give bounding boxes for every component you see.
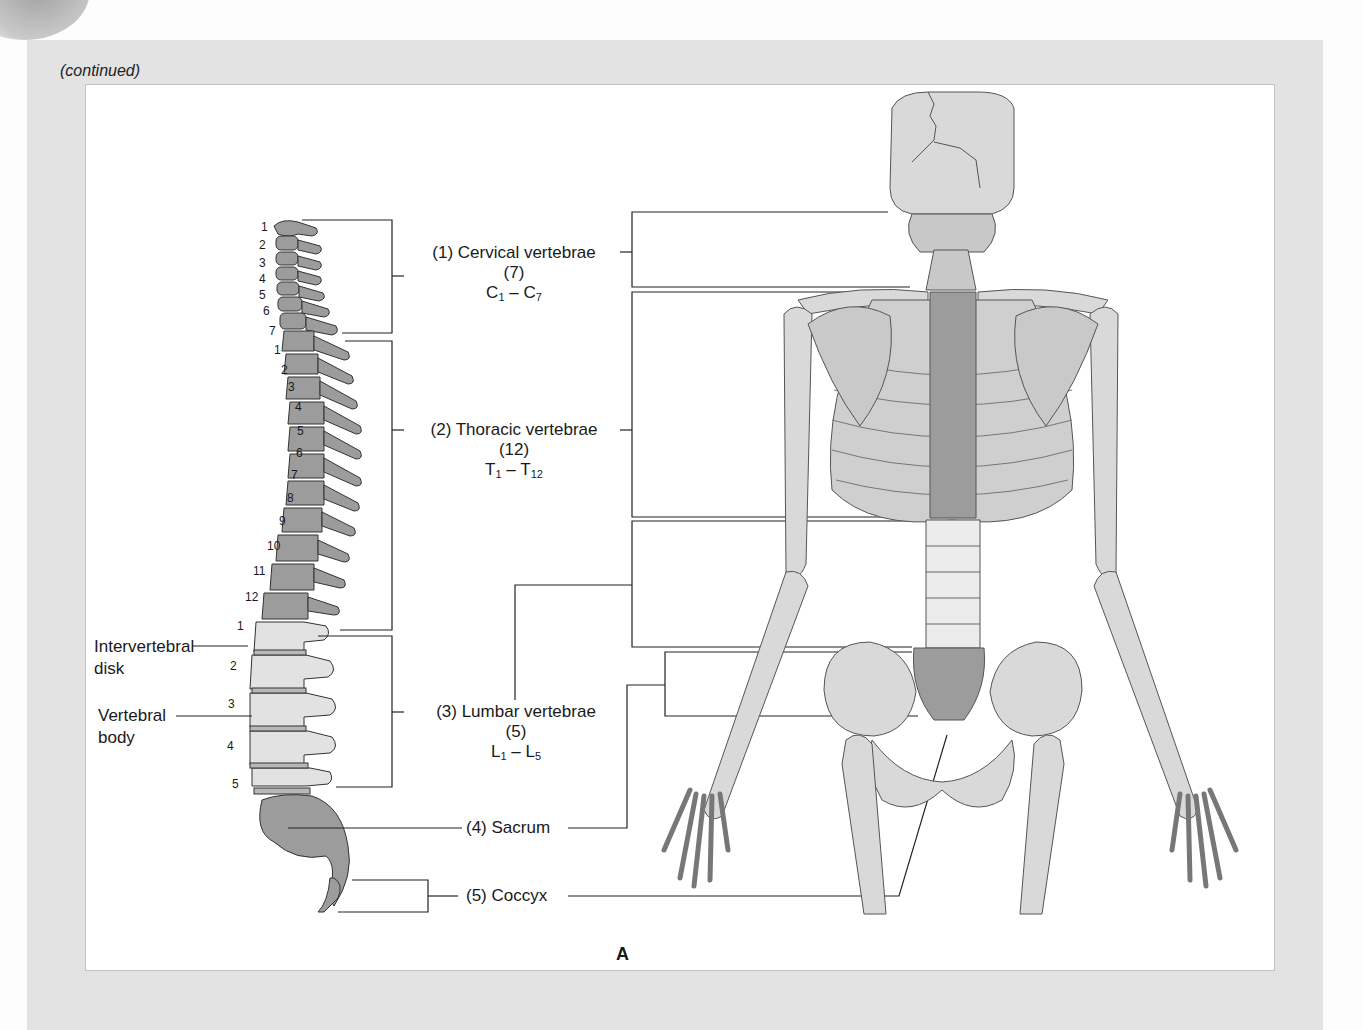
- lumbar-range: L1 – L5: [436, 742, 596, 762]
- right-ilium: [990, 642, 1082, 736]
- thoracic-range: T1 – T12: [431, 460, 598, 480]
- vertebral-body-label: Vertebral body: [98, 705, 166, 749]
- sacrum-label: (4) Sacrum: [464, 818, 552, 838]
- thoracic-label: (2) Thoracic vertebrae (12) T1 – T12: [431, 420, 598, 480]
- skull: [890, 92, 1014, 214]
- cervical-range: C1 – C7: [432, 283, 595, 303]
- lumbar-vertebrae-drawing: [250, 622, 336, 786]
- skeleton-posterior-view: [664, 92, 1236, 914]
- cervical-spine: [926, 250, 976, 290]
- sacrum: [913, 648, 984, 720]
- thoracic-spine: [930, 292, 976, 518]
- figure-letter: A: [616, 944, 629, 965]
- left-ilium: [824, 642, 916, 736]
- thoracic-vertebrae-drawing: [262, 331, 361, 619]
- cervical-label: (1) Cervical vertebrae (7) C1 – C7: [432, 243, 595, 303]
- intervertebral-disk-label: Intervertebral disk: [94, 636, 194, 680]
- coccyx-label: (5) Coccyx: [464, 886, 549, 906]
- cervical-vertebrae-drawing: [274, 221, 337, 335]
- lumbar-label: (3) Lumbar vertebrae (5) L1 – L5: [436, 702, 596, 762]
- lumbar-spine: [926, 520, 980, 648]
- coccyx-drawing: [318, 878, 340, 912]
